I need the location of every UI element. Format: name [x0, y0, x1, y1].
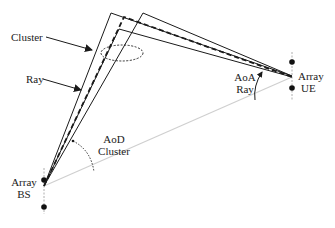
ue-array-element-bottom: [289, 85, 295, 91]
aod-label-line1: AoD: [92, 133, 136, 145]
ray-path-inner: [44, 29, 292, 186]
bs-array-label: Array BS: [8, 176, 40, 200]
ray-label: Ray: [26, 73, 44, 85]
bs-array-element-bottom: [41, 204, 47, 210]
ue-label-line2: UE: [298, 82, 324, 94]
bs-label-line2: BS: [8, 188, 40, 200]
aoa-label: AoA Ray: [228, 71, 262, 95]
cluster-label: Cluster: [11, 31, 43, 43]
ue-array-element-top: [289, 59, 295, 65]
aod-angle-arc: [73, 141, 94, 172]
aod-label-line2: Cluster: [92, 145, 136, 157]
bs-label-line1: Array: [8, 176, 40, 188]
aod-label: AoD Cluster: [92, 133, 136, 157]
aoa-label-line1: AoA: [228, 71, 262, 83]
ray-arrow: [43, 79, 81, 90]
ue-array-label: Array UE: [298, 70, 324, 94]
cluster-arrow: [46, 37, 92, 50]
diagram-canvas: [0, 0, 335, 228]
ue-label-line1: Array: [298, 70, 324, 82]
aod-arc-end: [72, 140, 75, 143]
aoa-label-line2: Ray: [228, 83, 262, 95]
